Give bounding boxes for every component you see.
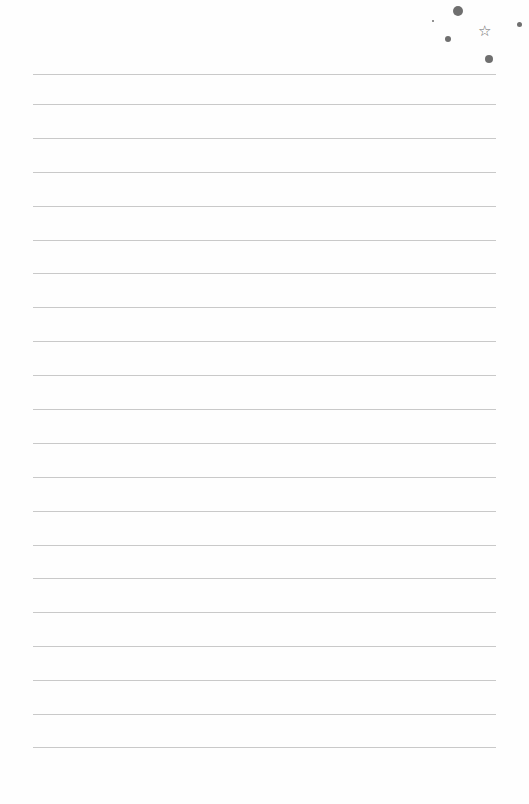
ruled-line (33, 104, 496, 105)
ruled-line (33, 172, 496, 173)
ruled-line (33, 341, 496, 342)
decorative-dot-icon (517, 22, 522, 27)
ruled-line (33, 443, 496, 444)
star-icon: ☆ (478, 24, 491, 39)
ruled-line (33, 206, 496, 207)
decorative-dot-icon (432, 20, 434, 22)
ruled-line (33, 680, 496, 681)
ruled-line (33, 646, 496, 647)
ruled-line (33, 138, 496, 139)
ruled-line (33, 612, 496, 613)
decorative-dot-icon (453, 6, 463, 16)
ruled-line (33, 273, 496, 274)
ruled-line (33, 409, 496, 410)
ruled-line (33, 747, 496, 748)
ruled-line (33, 307, 496, 308)
ruled-line (33, 477, 496, 478)
ruled-line (33, 714, 496, 715)
ruled-line (33, 545, 496, 546)
ruled-line (33, 511, 496, 512)
ruled-line (33, 240, 496, 241)
lined-paper (0, 0, 529, 804)
decorative-dot-icon (485, 55, 493, 63)
ruled-line (33, 74, 496, 75)
ruled-line (33, 375, 496, 376)
decorative-dot-icon (445, 36, 451, 42)
ruled-line (33, 578, 496, 579)
